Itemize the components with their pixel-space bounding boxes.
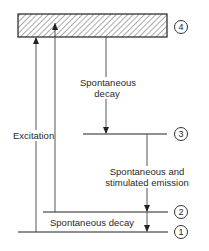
decay-top-line1: Spontaneous [80,77,134,88]
level-1-marker: 1 [174,225,188,239]
emission-line1: Spontaneous and [103,166,191,177]
decay-top-label: Spontaneous decay [80,77,134,99]
level-4-band [18,14,167,37]
excitation-label: Excitation [13,130,54,141]
level-4-marker: 4 [174,20,188,34]
level-3-marker: 3 [174,127,188,141]
emission-line2: stimulated emission [103,177,191,188]
level-2-marker: 2 [174,205,188,219]
decay-top-line2: decay [80,88,134,99]
decay-bottom-label: Spontaneous decay [50,217,134,228]
emission-label: Spontaneous and stimulated emission [103,166,191,188]
